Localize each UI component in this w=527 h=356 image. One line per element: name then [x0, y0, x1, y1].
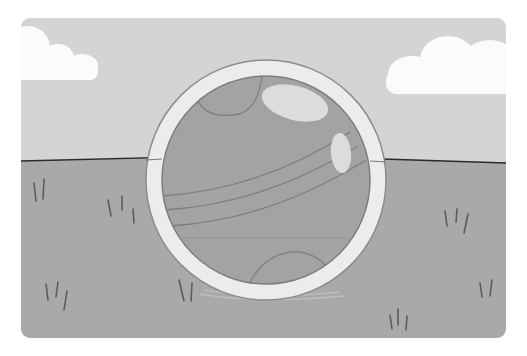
ball [162, 76, 370, 284]
illustration [0, 0, 527, 356]
card [6, 18, 518, 338]
